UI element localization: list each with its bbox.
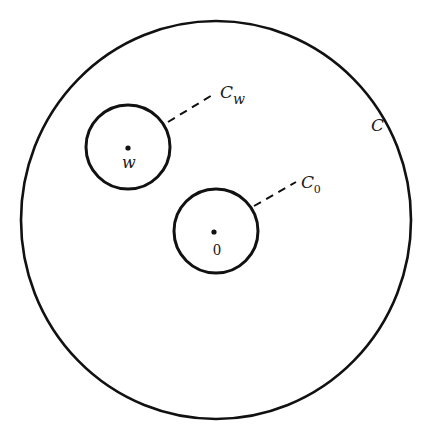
label-c0-main: C: [301, 172, 314, 192]
point-w: [125, 145, 130, 150]
point-label-0: 0: [213, 241, 221, 258]
label-cw-main: C: [220, 82, 233, 102]
point-label-w: w: [122, 153, 136, 172]
point-0: [211, 229, 216, 234]
label-cw-sub: w: [233, 91, 245, 107]
leader-line-c0: [254, 182, 296, 206]
diagram-canvas: C w Cw 0 C0: [0, 0, 429, 433]
label-c0: C0: [301, 172, 321, 196]
outer-circle-c: [21, 21, 411, 419]
label-cw: Cw: [220, 82, 245, 107]
leader-line-cw: [168, 94, 214, 122]
label-c0-sub: 0: [314, 181, 321, 196]
label-c: C: [371, 115, 384, 135]
